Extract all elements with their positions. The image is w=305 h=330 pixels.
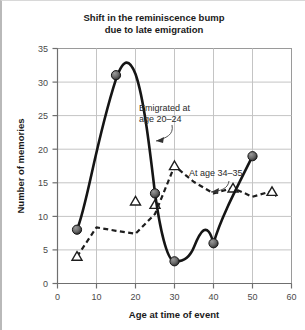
circle-marker — [170, 257, 179, 266]
x-tick-label-60: 60 — [286, 292, 296, 302]
reminiscence-bump-line-chart: Shift in the reminiscence bump due to la… — [2, 1, 305, 330]
y-tick-label-10: 10 — [38, 212, 48, 222]
triangle-marker — [72, 252, 82, 261]
annotation-1-line-1: Emigrated at — [139, 103, 191, 113]
annotation-1-line-2: age 20–24 — [139, 114, 182, 124]
circle-marker — [209, 239, 218, 248]
annotation-1-leader-line — [156, 125, 172, 141]
chart-title-line-1: Shift in the reminiscence bump — [84, 12, 225, 23]
annotation-2-arrowhead — [211, 188, 219, 194]
dashed-line-path — [77, 166, 277, 257]
solid-line-path — [77, 63, 253, 262]
circle-marker — [150, 189, 159, 198]
y-tick-label-25: 25 — [38, 111, 48, 121]
triangle-marker — [170, 161, 180, 170]
x-tick-label-30: 30 — [169, 292, 179, 302]
y-tick-label-35: 35 — [38, 44, 48, 54]
circle-marker — [72, 225, 81, 234]
x-axis-ticks — [58, 284, 292, 289]
y-tick-label-20: 20 — [38, 145, 48, 155]
x-tick-label-10: 10 — [91, 292, 101, 302]
circle-marker — [111, 71, 120, 80]
chart-title-line-2: due to late emigration — [105, 24, 204, 35]
x-tick-label-40: 40 — [208, 292, 218, 302]
y-tick-label-15: 15 — [38, 178, 48, 188]
y-tick-label-30: 30 — [38, 78, 48, 88]
triangle-marker — [131, 196, 141, 205]
x-tick-label-50: 50 — [247, 292, 257, 302]
y-tick-label-0: 0 — [43, 279, 48, 289]
y-axis-title: Number of memories — [15, 118, 26, 213]
series-emigrated-at-age-20-24 — [72, 63, 257, 266]
annotation-2-line-1: At age 34–35 — [189, 168, 243, 178]
annotation-1-arrowhead — [156, 137, 164, 143]
y-axis-ticks — [53, 49, 58, 284]
chart-figure: Shift in the reminiscence bump due to la… — [0, 0, 305, 330]
x-tick-label-0: 0 — [55, 292, 60, 302]
y-tick-label-5: 5 — [43, 245, 48, 255]
circle-marker — [248, 152, 257, 161]
x-tick-label-20: 20 — [130, 292, 140, 302]
x-axis-title: Age at time of event — [129, 309, 220, 320]
